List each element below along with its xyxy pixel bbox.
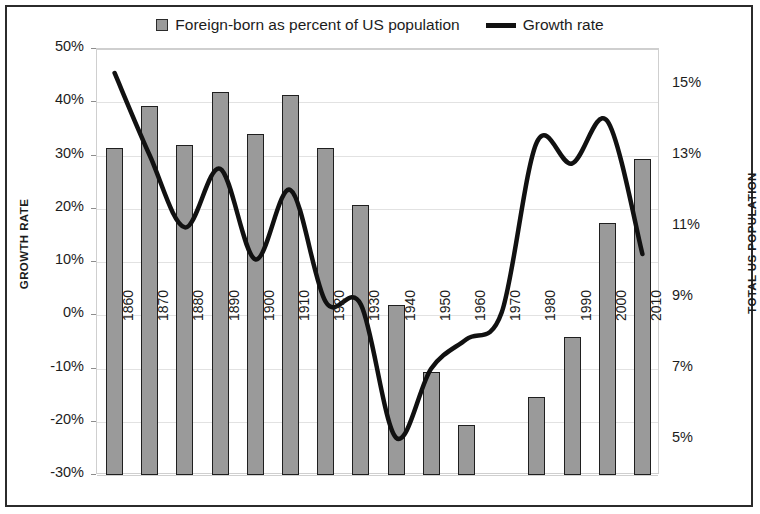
x-axis-label: 1880 <box>190 290 206 321</box>
x-axis-label: 1950 <box>437 290 453 321</box>
y-axis-left-tick-mark <box>91 155 96 156</box>
plot-area: 1860187018801890190019101920193019401950… <box>96 48 659 474</box>
growth-rate-line <box>115 73 643 439</box>
legend-label-foreign-born: Foreign-born as percent of US population <box>175 16 459 34</box>
y-axis-left-tick: 0% <box>14 304 84 320</box>
legend-entry-foreign-born: Foreign-born as percent of US population <box>156 16 459 34</box>
legend-entry-growth-rate: Growth rate <box>486 16 604 34</box>
y-axis-left-tick-mark <box>91 314 96 315</box>
y-axis-right-title: TOTAL US POPULATION <box>746 163 758 323</box>
x-axis-label: 1900 <box>261 290 277 321</box>
x-axis-label: 1990 <box>578 290 594 321</box>
chart-figure: Foreign-born as percent of US population… <box>0 0 760 514</box>
y-axis-left-tick-mark <box>91 474 96 475</box>
chart-legend: Foreign-born as percent of US population… <box>0 16 760 34</box>
line-swatch-icon <box>486 23 516 28</box>
y-axis-left-tick-mark <box>91 48 96 49</box>
y-axis-left-tick: 10% <box>14 251 84 267</box>
y-axis-right-tick: 13% <box>672 145 732 161</box>
y-axis-right-tick: 9% <box>672 287 732 303</box>
x-axis-label: 1970 <box>507 290 523 321</box>
x-axis-label: 1980 <box>542 290 558 321</box>
y-axis-right-tick: 7% <box>672 358 732 374</box>
y-axis-left-tick: 30% <box>14 145 84 161</box>
y-axis-left-tick: 50% <box>14 38 84 54</box>
y-axis-left-tick-mark <box>91 261 96 262</box>
line-series <box>97 49 660 475</box>
x-axis-label: 1890 <box>226 290 242 321</box>
y-axis-left-tick: 40% <box>14 91 84 107</box>
y-axis-left-tick: -30% <box>14 464 84 480</box>
x-axis-label: 1960 <box>472 290 488 321</box>
y-axis-left-tick: -10% <box>14 358 84 374</box>
y-axis-left-tick: -20% <box>14 411 84 427</box>
x-axis-label: 1910 <box>296 290 312 321</box>
y-axis-left-tick-mark <box>91 208 96 209</box>
legend-label-growth-rate: Growth rate <box>523 16 604 34</box>
x-axis-label: 2010 <box>648 290 664 321</box>
y-axis-right-tick: 15% <box>672 74 732 90</box>
x-axis-label: 1860 <box>120 290 136 321</box>
gridline <box>97 475 658 476</box>
bar-swatch-icon <box>156 19 168 31</box>
y-axis-right-tick: 5% <box>672 429 732 445</box>
y-axis-left-tick-mark <box>91 421 96 422</box>
x-axis-label: 1940 <box>402 290 418 321</box>
x-axis-label: 1920 <box>331 290 347 321</box>
y-axis-right-tick: 11% <box>672 216 732 232</box>
y-axis-left-tick: 20% <box>14 198 84 214</box>
x-axis-label: 1870 <box>155 290 171 321</box>
x-axis-label: 1930 <box>366 290 382 321</box>
x-axis-label: 2000 <box>613 290 629 321</box>
y-axis-left-tick-mark <box>91 368 96 369</box>
y-axis-left-tick-mark <box>91 101 96 102</box>
